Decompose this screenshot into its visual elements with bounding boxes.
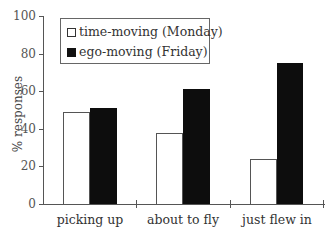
- bar-chart: % responses 0 20 40 60 80 100 picking up…: [0, 0, 336, 235]
- y-tick: [39, 91, 44, 92]
- x-tick: [323, 200, 324, 208]
- bar-time-moving-picking-up: [63, 112, 90, 204]
- y-tick: [39, 129, 44, 130]
- y-tick-label: 40: [2, 123, 36, 135]
- y-tick-label: 100: [2, 10, 36, 22]
- y-tick: [39, 204, 44, 205]
- x-category-label: about to fly: [136, 212, 230, 227]
- bar-ego-moving-about-to-fly: [183, 89, 210, 204]
- x-tick: [230, 200, 231, 208]
- legend-item-time-moving: time-moving (Monday): [67, 24, 223, 39]
- legend-label: time-moving (Monday): [79, 24, 223, 39]
- x-axis: [43, 204, 325, 205]
- y-tick-label: 60: [2, 85, 36, 97]
- y-tick-label: 0: [2, 198, 36, 210]
- x-tick: [136, 200, 137, 208]
- y-tick-label: 80: [2, 48, 36, 60]
- bar-ego-moving-just-flew-in: [277, 63, 303, 204]
- y-tick: [39, 54, 44, 55]
- bar-ego-moving-picking-up: [90, 108, 117, 204]
- legend: time-moving (Monday) ego-moving (Friday): [60, 18, 210, 64]
- black-square-icon: [67, 48, 76, 57]
- y-tick: [39, 16, 44, 17]
- white-square-icon: [67, 28, 76, 37]
- x-category-label: just flew in: [230, 212, 324, 227]
- y-tick: [39, 166, 44, 167]
- legend-label: ego-moving (Friday): [79, 44, 208, 59]
- x-category-label: picking up: [43, 212, 137, 227]
- bar-time-moving-just-flew-in: [250, 159, 277, 204]
- legend-item-ego-moving: ego-moving (Friday): [67, 44, 208, 59]
- bar-time-moving-about-to-fly: [156, 133, 183, 204]
- y-tick-label: 20: [2, 160, 36, 172]
- y-axis: [43, 16, 44, 204]
